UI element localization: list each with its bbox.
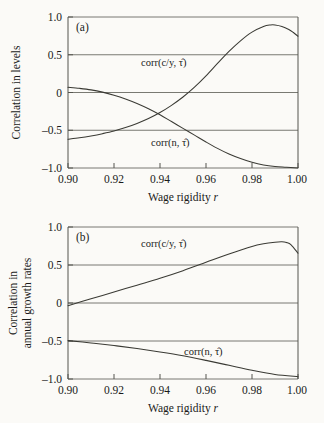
panel-a-ytick-label-1: 0.5: [48, 49, 63, 61]
panel-a-curve-cy: [68, 25, 298, 140]
panel-b-x-ticks: [68, 374, 298, 379]
panel-b-y-axis-title-line1: Correlation in: [7, 271, 19, 335]
panel-a-xtick-label-3: 0.96: [196, 173, 216, 185]
panel-a-xtick-label-5: 1.00: [287, 173, 307, 185]
chart-panel-b: 1.0 0.5 0 –0.5 –1.0 0.90 0.92 0.94 0.96 …: [0, 210, 324, 423]
panel-b-ytick-label-1: 0.5: [48, 259, 63, 271]
panel-b-tag: (b): [76, 231, 90, 244]
panel-b-ytick-label-3: –0.5: [41, 335, 62, 347]
panel-b-curve-n: [68, 341, 298, 377]
figure-container: 1.0 0.5 0 –0.5 –1.0 0.90 0.92 0.94 0.96 …: [0, 0, 324, 423]
panel-a-label-n: corr(n, τ̂): [151, 137, 190, 148]
panel-b-xtick-label-4: 0.98: [242, 384, 262, 396]
panel-b-xtick-label-0: 0.90: [58, 384, 78, 396]
panel-b-xtick-label-2: 0.94: [150, 384, 170, 396]
panel-b-xtick-label-3: 0.96: [196, 384, 216, 396]
panel-a-xtick-label-2: 0.94: [150, 173, 170, 185]
panel-a-y-ticks: [68, 17, 73, 168]
panel-b-curve-cy: [68, 242, 298, 306]
panel-a-ytick-label-0: 1.0: [48, 11, 63, 23]
panel-a-y-axis-title: Correlation in levels: [10, 45, 22, 139]
panel-b-ytick-label-0: 1.0: [48, 221, 63, 233]
panel-a-label-cy: corr(c/y, τ̂): [141, 57, 187, 68]
panel-a-plot: 1.0 0.5 0 –0.5 –1.0 0.90 0.92 0.94 0.96 …: [0, 0, 324, 211]
panel-a-tag: (a): [76, 21, 89, 34]
panel-b-xtick-label-5: 1.00: [287, 384, 307, 396]
chart-panel-a: 1.0 0.5 0 –0.5 –1.0 0.90 0.92 0.94 0.96 …: [0, 0, 324, 211]
panel-b-y-axis-title-line2: annual growth rates: [21, 257, 34, 348]
panel-b-y-ticks: [68, 227, 73, 379]
panel-a-xtick-label-0: 0.90: [58, 173, 78, 185]
panel-a-ytick-label-2: 0: [56, 87, 62, 99]
panel-a-xtick-label-1: 0.92: [104, 173, 124, 185]
panel-b-label-cy: corr(c/y, τ̂): [141, 238, 187, 249]
panel-a-xtick-label-4: 0.98: [242, 173, 262, 185]
panel-a-ytick-label-3: –0.5: [41, 124, 62, 136]
panel-b-ytick-label-2: 0: [56, 297, 62, 309]
panel-b-x-axis-title: Wage rigidity r: [148, 402, 219, 415]
panel-b-xtick-label-1: 0.92: [104, 384, 124, 396]
panel-b-label-n: corr(n, τ̂): [184, 346, 223, 357]
panel-a-curve-n: [68, 87, 298, 168]
panel-a-x-axis-title: Wage rigidity r: [148, 191, 219, 204]
